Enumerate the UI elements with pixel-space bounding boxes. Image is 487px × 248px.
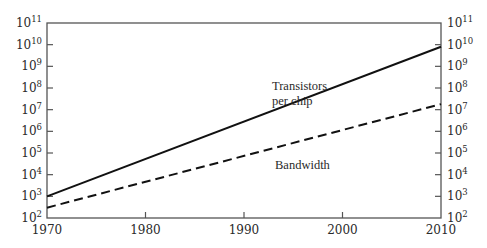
series-label: Transistors xyxy=(272,79,327,93)
y-tick-label-right: 107 xyxy=(447,101,468,117)
y-tick-label: 103 xyxy=(21,187,42,203)
y-tick-label: 105 xyxy=(21,144,42,160)
y-tick-label-right: 103 xyxy=(447,187,468,203)
y-tick-label-right: 108 xyxy=(447,79,468,95)
y-tick-label: 108 xyxy=(21,79,42,95)
x-axis: 19701980199020002010 xyxy=(32,212,457,237)
x-tick-label: 2000 xyxy=(327,223,358,237)
line-chart: 10210310410510610710810910101011 1021031… xyxy=(0,0,487,248)
y-tick-label-right: 109 xyxy=(447,57,468,73)
y-tick-label: 109 xyxy=(21,57,42,73)
series-label: per chip xyxy=(272,94,313,108)
x-tick-label: 1990 xyxy=(229,223,260,237)
series-lines xyxy=(47,47,441,208)
y-tick-label: 107 xyxy=(21,101,42,117)
y-tick-label: 1011 xyxy=(16,14,42,30)
y-tick-label: 104 xyxy=(21,166,42,182)
y-tick-label: 106 xyxy=(21,122,42,138)
y-tick-label: 1010 xyxy=(16,36,42,52)
series-annotations: Transistorsper chipBandwidth xyxy=(272,79,331,172)
y-tick-label-right: 1011 xyxy=(447,14,473,30)
y-tick-label-right: 1010 xyxy=(447,36,473,52)
y-tick-label-right: 106 xyxy=(447,122,468,138)
series-label: Bandwidth xyxy=(275,158,331,172)
y-tick-label-right: 104 xyxy=(447,166,468,182)
x-tick-label: 1980 xyxy=(130,223,161,237)
series-line-transistors xyxy=(47,47,441,197)
series-line-bandwidth xyxy=(47,104,441,208)
x-tick-label: 2010 xyxy=(426,223,457,237)
x-tick-label: 1970 xyxy=(32,223,63,237)
y-tick-label-right: 105 xyxy=(447,144,468,160)
